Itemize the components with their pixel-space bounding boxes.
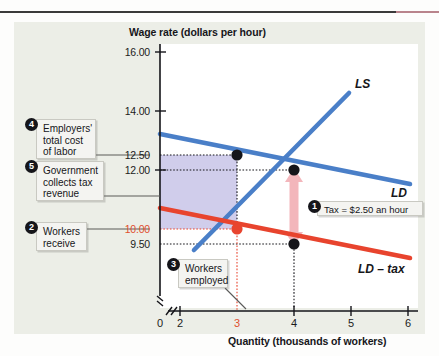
- curve-label-ld: LD: [391, 186, 407, 200]
- x-tick-label-2: 2: [170, 317, 190, 329]
- callout-2-line1: Workers: [43, 226, 81, 238]
- x-tick-label-5: 5: [341, 317, 361, 329]
- y-tick-label-9-50: 9.50: [104, 238, 150, 250]
- y-tick-label-12-00: 12.00: [104, 164, 150, 176]
- callout-5-badge: 5: [25, 160, 38, 173]
- callout-tax-amount: Tax = $2.50 an hour: [317, 201, 423, 216]
- callout-3-badge: 3: [167, 258, 180, 271]
- callout-3-line1: Workers: [185, 263, 222, 275]
- curve-label-ld-tax: LD – tax: [358, 262, 405, 276]
- x-axis-title: Quantity (thousands of workers): [228, 335, 387, 347]
- x-tick-label-0: 0: [150, 317, 170, 329]
- figure-root: Wage rate (dollars per hour) Quantity (t…: [0, 0, 439, 356]
- y-axis-title: Wage rate (dollars per hour): [129, 26, 266, 38]
- callout-4-line3: of labor: [43, 146, 90, 158]
- x-tick-label-6: 6: [398, 317, 418, 329]
- callout-5-line1: Government: [43, 165, 98, 177]
- y-tick-label-10-00: 10.00: [104, 223, 150, 235]
- y-tick-label-16: 16.00: [104, 46, 150, 58]
- y-tick-label-12-50: 12.50: [104, 149, 150, 161]
- x-tick-label-3: 3: [227, 317, 247, 329]
- callout-workers-receive: Workers receive: [36, 222, 87, 251]
- callout-2-badge: 2: [25, 221, 38, 234]
- curve-label-ls: LS: [355, 77, 370, 91]
- x-tick-label-4: 4: [284, 317, 304, 329]
- callout-1-badge: 1: [308, 200, 321, 213]
- axis-break-icon: [157, 296, 177, 315]
- callout-4-badge: 4: [25, 118, 38, 131]
- callout-4-line2: total cost: [43, 135, 90, 147]
- callout-employers-cost: Employers' total cost of labor: [36, 119, 96, 159]
- callout-tax-revenue: Government collects tax revenue: [36, 161, 104, 201]
- callout-5-line2: collects tax: [43, 177, 98, 189]
- callout-2-line2: receive: [43, 238, 81, 250]
- y-tick-label-14: 14.00: [104, 105, 150, 117]
- callout-workers-employed: Workers employed: [178, 259, 228, 288]
- callout-4-line1: Employers': [43, 123, 90, 135]
- callout-5-line3: revenue: [43, 188, 98, 200]
- callout-3-line2: employed: [185, 275, 222, 287]
